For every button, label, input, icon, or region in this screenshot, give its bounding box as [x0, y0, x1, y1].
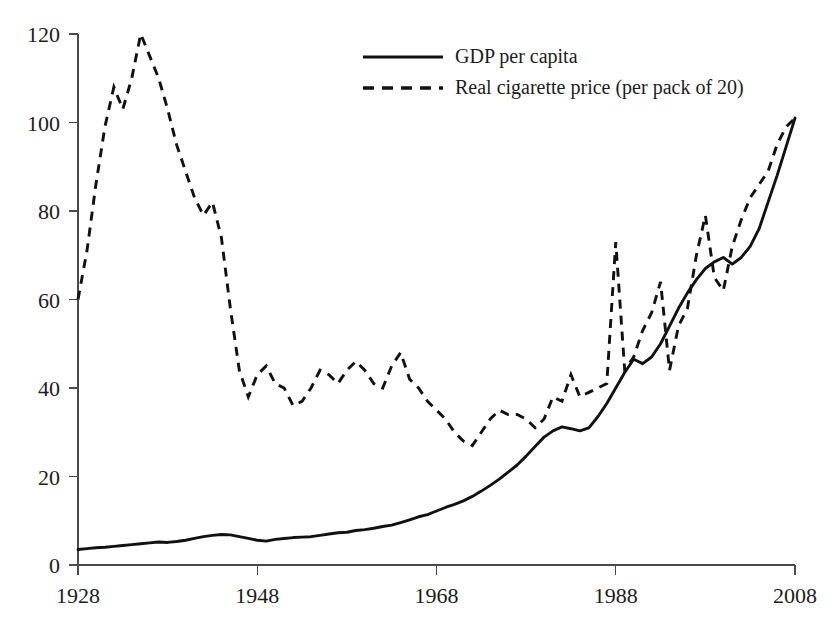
- legend: GDP per capita Real cigarette price (per…: [363, 45, 744, 99]
- legend-label-gdp-per-capita: GDP per capita: [455, 45, 578, 68]
- x-tick-label: 1948: [235, 583, 279, 608]
- y-tick-label: 60: [38, 288, 60, 313]
- line-chart: 020406080100120 19281948196819882008 GDP…: [0, 0, 836, 622]
- y-axis: 020406080100120: [27, 22, 78, 578]
- y-tick-label: 20: [38, 465, 60, 490]
- y-tick-label: 120: [27, 22, 60, 47]
- y-tick-label: 80: [38, 199, 60, 224]
- x-axis: 19281948196819882008: [56, 565, 817, 608]
- x-tick-label: 1928: [56, 583, 100, 608]
- y-tick-label: 0: [49, 553, 60, 578]
- y-tick-marks: [69, 34, 78, 565]
- series-line-gdp-per-capita: [78, 118, 795, 549]
- chart-container: 020406080100120 19281948196819882008 GDP…: [0, 0, 836, 622]
- legend-label-real-cigarette-price: Real cigarette price (per pack of 20): [455, 76, 744, 99]
- y-tick-label: 40: [38, 376, 60, 401]
- x-tick-marks: [78, 565, 795, 575]
- x-tick-label: 1968: [415, 583, 459, 608]
- data-series-group: [78, 34, 795, 550]
- y-tick-labels: 020406080100120: [27, 22, 60, 578]
- x-tick-labels: 19281948196819882008: [56, 583, 817, 608]
- x-tick-label: 1988: [594, 583, 638, 608]
- x-tick-label: 2008: [773, 583, 817, 608]
- y-tick-label: 100: [27, 111, 60, 136]
